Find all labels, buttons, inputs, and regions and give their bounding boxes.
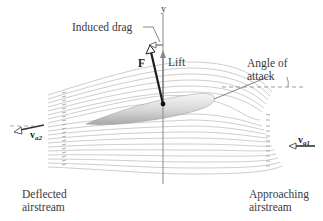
y-axis-label: y: [161, 3, 166, 15]
approaching-airstream-label-line2: airstream: [249, 201, 292, 213]
lift-label: Lift: [168, 56, 185, 68]
lift-arrowhead: [160, 50, 166, 58]
angle-of-attack-label-line1: Angle of: [247, 57, 288, 69]
angle-arc: [287, 77, 288, 87]
v-a1-arrowhead: [289, 143, 296, 149]
approaching-airstream-label-line1: Approaching: [249, 188, 309, 200]
airfoil-diagram: Induced drag y F Lift Angle of attack va…: [0, 0, 323, 221]
v-a1-label: va1: [298, 134, 310, 149]
center-of-pressure-dot: [161, 102, 166, 107]
v-a2-arrowhead: [14, 127, 22, 134]
deflected-airstream-label-line1: Deflected: [22, 188, 67, 200]
v-a2-subscript: a2: [35, 134, 42, 142]
v-a2-label: va2: [30, 129, 42, 144]
induced-drag-label: Induced drag: [72, 21, 132, 33]
deflected-airstream-label-line2: airstream: [22, 201, 65, 213]
induced-drag-leader: [143, 27, 160, 42]
force-label: F: [138, 57, 145, 69]
angle-of-attack-label-line2: attack: [247, 70, 274, 82]
v-a1-subscript: a1: [303, 139, 310, 147]
streamline-arrows-right: [266, 114, 270, 166]
